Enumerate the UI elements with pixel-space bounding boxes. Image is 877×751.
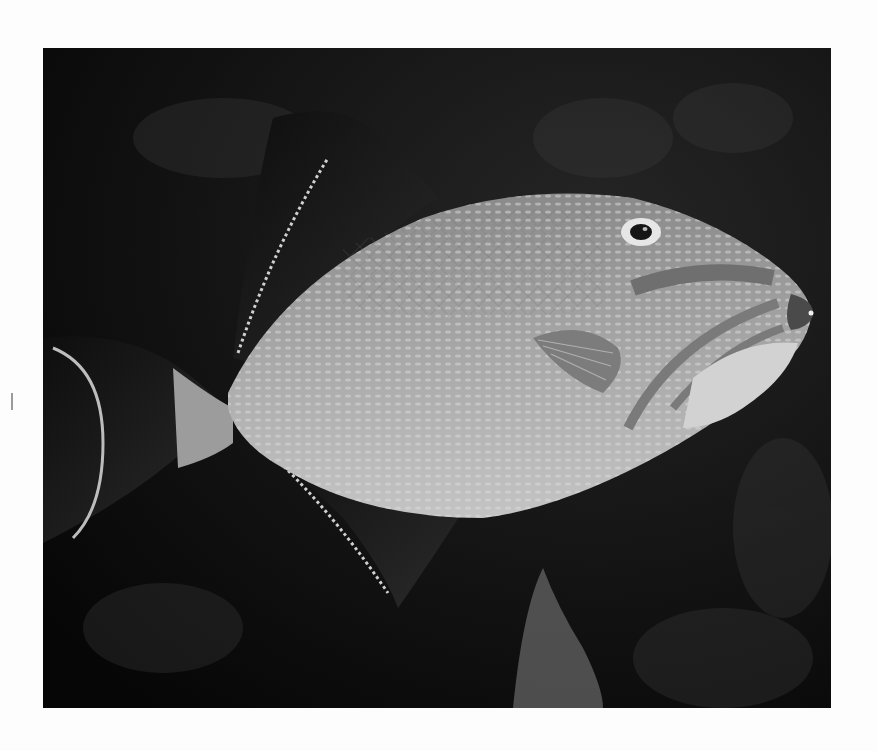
fish-photograph: Grayscale photograph of a triggerfish [43,48,831,708]
fish-illustration [43,48,831,708]
mouth-teeth [809,311,814,316]
scan-artifact-mark [11,393,13,410]
eye-icon [621,218,661,246]
